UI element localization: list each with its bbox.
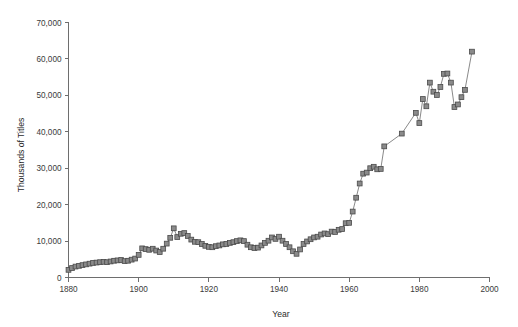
data-point-marker <box>164 241 169 246</box>
data-point-marker <box>340 227 345 232</box>
data-point-marker <box>427 80 432 85</box>
data-point-marker <box>378 167 383 172</box>
series-markers-titles <box>66 49 474 272</box>
y-tick-label: 30,000 <box>36 164 61 173</box>
y-tick-label: 70,000 <box>36 19 61 28</box>
data-point-marker <box>298 247 303 252</box>
x-tick-label: 1960 <box>340 285 359 294</box>
data-point-marker <box>417 121 422 126</box>
y-tick-label: 60,000 <box>36 55 61 64</box>
data-point-marker <box>456 102 461 107</box>
y-axis-title: Thousands of Titles <box>16 118 26 193</box>
data-point-marker <box>420 97 425 102</box>
x-tick-label: 1940 <box>270 285 289 294</box>
data-point-marker <box>445 71 450 76</box>
data-point-marker <box>347 220 352 225</box>
data-point-marker <box>161 246 166 251</box>
data-point-marker <box>399 131 404 136</box>
data-point-marker <box>354 195 359 200</box>
y-tick-label: 40,000 <box>36 128 61 137</box>
data-point-marker <box>171 226 176 231</box>
x-tick-label: 2000 <box>480 285 499 294</box>
data-point-marker <box>357 181 362 186</box>
y-tick-label: 0 <box>57 274 62 283</box>
data-point-marker <box>438 85 443 90</box>
data-point-marker <box>424 104 429 109</box>
data-point-marker <box>350 209 355 214</box>
data-point-marker <box>463 87 468 92</box>
y-tick-label: 10,000 <box>36 237 61 246</box>
data-point-marker <box>470 49 475 54</box>
data-point-marker <box>459 95 464 100</box>
chart-canvas: 010,00020,00030,00040,00050,00060,00070,… <box>0 0 518 327</box>
x-tick-label: 1920 <box>200 285 219 294</box>
line-chart: 010,00020,00030,00040,00050,00060,00070,… <box>0 0 518 327</box>
data-point-marker <box>434 93 439 98</box>
y-tick-label: 50,000 <box>36 91 61 100</box>
y-axis-ticks: 010,00020,00030,00040,00050,00060,00070,… <box>36 19 68 283</box>
x-tick-label: 1880 <box>59 285 78 294</box>
data-point-marker <box>168 235 173 240</box>
data-point-marker <box>136 253 141 258</box>
data-point-marker <box>382 144 387 149</box>
data-point-marker <box>413 110 418 115</box>
data-point-marker <box>449 80 454 85</box>
x-tick-label: 1900 <box>130 285 149 294</box>
x-axis-ticks: 1880190019201940196019802000 <box>59 278 499 294</box>
x-tick-label: 1980 <box>410 285 429 294</box>
y-tick-label: 20,000 <box>36 201 61 210</box>
x-axis-title: Year <box>272 309 290 319</box>
